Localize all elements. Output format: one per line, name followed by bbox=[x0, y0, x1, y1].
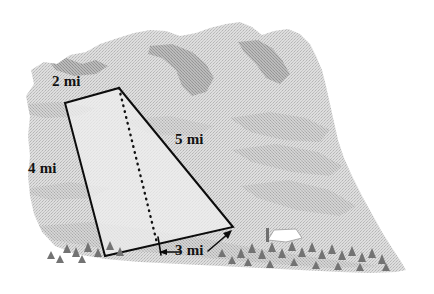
label-left-4mi: 4 mi bbox=[28, 161, 57, 176]
figure-root: 2 mi 4 mi 5 mi 3 mi bbox=[0, 0, 434, 294]
label-right-5mi: 5 mi bbox=[175, 132, 204, 147]
label-bottom-3mi: 3 mi bbox=[175, 243, 204, 258]
mountain-parcel-diagram bbox=[0, 0, 434, 294]
label-top-2mi: 2 mi bbox=[52, 74, 81, 89]
